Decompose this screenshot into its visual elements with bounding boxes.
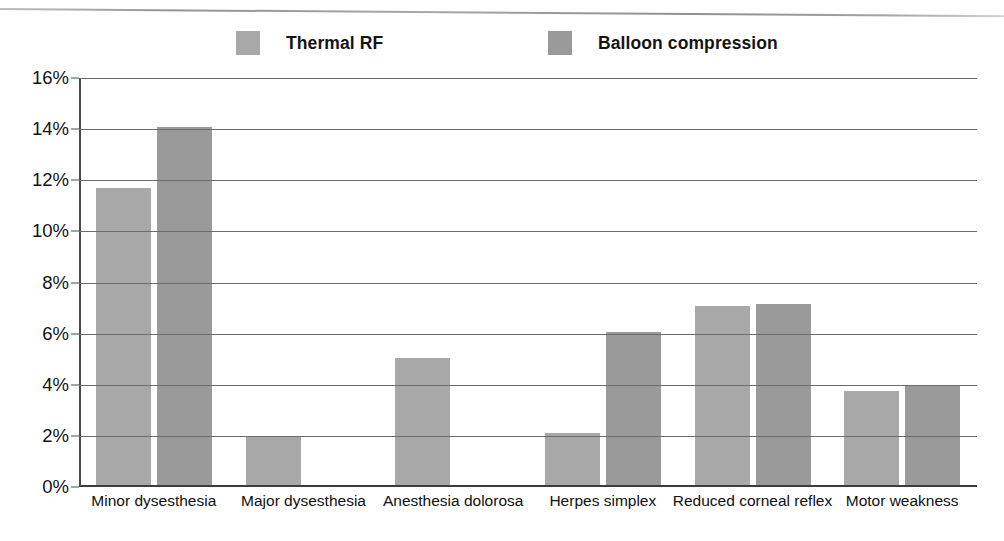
y-axis-tick-label: 8% [3,272,69,294]
y-axis-tick-label: 0% [3,476,69,498]
plot-area [79,78,977,487]
y-axis-tick-label: 10% [3,220,69,242]
x-axis-category-label: Herpes simplex [549,492,656,510]
y-axis-tick-mark [71,129,79,130]
page-rule-line [0,8,1004,17]
y-axis-tick-mark [71,333,79,334]
y-axis-tick-mark [71,487,79,488]
gridline [79,231,977,232]
bar [246,436,301,487]
y-axis-tick-mark [71,435,79,436]
bar [395,358,450,487]
x-axis-labels: Minor dysesthesiaMajor dysesthesiaAnesth… [79,492,977,522]
x-axis-category-label: Major dysesthesia [241,492,366,510]
y-axis-tick-label: 16% [3,67,69,89]
bar [756,304,811,487]
gridline [79,436,977,437]
y-axis-tick-label: 14% [3,118,69,140]
chart-legend: Thermal RF Balloon compression [0,26,1004,60]
x-axis-category-label: Anesthesia dolorosa [383,492,523,510]
y-axis: 0%2%4%6%8%10%12%14%16% [0,78,79,487]
y-axis-tick-mark [71,282,79,283]
y-axis-tick-label: 6% [3,323,69,345]
y-axis-tick-mark [71,384,79,385]
bar [844,391,899,487]
bar [545,433,600,487]
gridline [79,385,977,386]
y-axis-tick-label: 2% [3,425,69,447]
bar [606,332,661,487]
y-axis-tick-mark [71,78,79,79]
gridline [79,129,977,130]
chart-figure: Thermal RF Balloon compression 0%2%4%6%8… [0,0,1004,541]
gridline [79,485,977,487]
legend-label-balloon-compression: Balloon compression [598,33,778,54]
legend-item-thermal-rf: Thermal RF [236,26,383,60]
gridline [79,78,977,79]
x-axis-category-label: Reduced corneal reflex [673,492,832,510]
legend-swatch-balloon-compression [548,31,572,55]
gridline [79,334,977,335]
gridline [79,283,977,284]
y-axis-tick-label: 4% [3,374,69,396]
y-axis-tick-mark [71,231,79,232]
y-axis-tick-mark [71,180,79,181]
gridline [79,180,977,181]
x-axis-category-label: Motor weakness [846,492,959,510]
x-axis-category-label: Minor dysesthesia [91,492,216,510]
legend-item-balloon-compression: Balloon compression [548,26,778,60]
y-axis-tick-label: 12% [3,169,69,191]
bar [96,188,151,487]
legend-swatch-thermal-rf [236,31,260,55]
legend-label-thermal-rf: Thermal RF [286,33,383,54]
